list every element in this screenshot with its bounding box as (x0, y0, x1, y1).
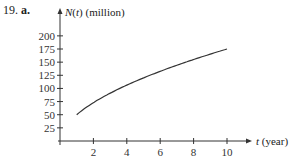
y-tick-label: 50 (44, 109, 56, 121)
x-axis-label: t (year) (256, 135, 288, 148)
x-tick-label: 8 (191, 146, 197, 158)
y-tick-label: 150 (39, 56, 56, 68)
x-axis-arrow-icon (246, 139, 252, 144)
x-tick-label: 10 (222, 146, 234, 158)
x-tick-label: 4 (124, 146, 130, 158)
y-tick-label: 125 (39, 69, 56, 81)
y-tick-label: 100 (39, 82, 56, 94)
y-axis-arrow-icon (58, 8, 63, 14)
y-tick-label: 175 (39, 43, 56, 55)
y-tick-label: 75 (44, 96, 56, 108)
x-tick-label: 6 (157, 146, 163, 158)
y-tick-label: 200 (39, 30, 56, 42)
series-line-n-of-t (77, 49, 227, 115)
y-tick-label: 25 (44, 122, 56, 134)
x-tick-label: 2 (91, 146, 97, 158)
chart: 255075100125150175200246810N(t) (million… (0, 0, 291, 164)
y-axis-label: N(t) (million) (64, 6, 125, 19)
